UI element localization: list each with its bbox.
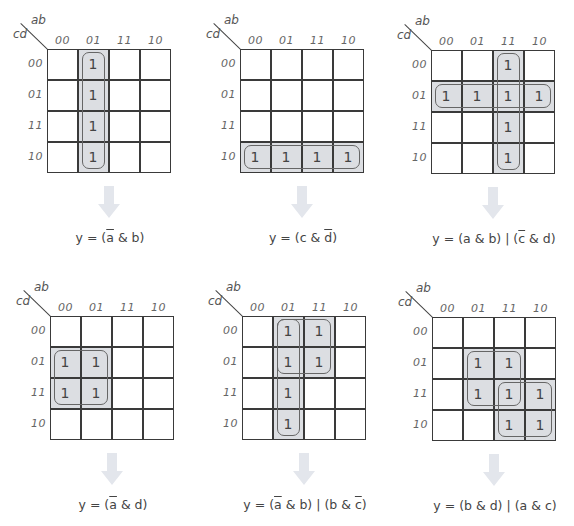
- boolean-formula: y = (a & d): [3, 497, 223, 512]
- column-variable-label: ab: [415, 14, 430, 28]
- kmap-cell: [525, 348, 556, 379]
- kmap-cell: [112, 378, 143, 409]
- row-code-label: 00: [399, 325, 428, 338]
- down-arrow-icon: [483, 454, 505, 486]
- group-loop: [54, 350, 108, 405]
- kmap-cell: [335, 347, 366, 378]
- boolean-formula: y = (c & d): [193, 230, 413, 245]
- formula-text: y = (a & b) | (: [432, 231, 518, 246]
- row-code-label: 11: [398, 120, 427, 133]
- kmap-cell: [140, 80, 171, 111]
- column-code-label: 10: [140, 34, 171, 47]
- column-code-label: 01: [271, 34, 302, 47]
- column-code-label: 10: [525, 302, 556, 315]
- kmap-cell: [143, 378, 174, 409]
- formula-text: y = (: [76, 230, 107, 245]
- formula-text: ): [362, 497, 367, 512]
- kmap-cell: [140, 142, 171, 173]
- kmap-cell: [140, 49, 171, 80]
- column-code-label: 00: [47, 34, 78, 47]
- kmap-cell: [431, 143, 462, 174]
- column-code-label: 11: [302, 34, 333, 47]
- kmap-cell: [271, 49, 302, 80]
- row-code-label: 01: [14, 88, 43, 101]
- kmap-cell: [240, 49, 271, 80]
- column-code-label: 11: [494, 302, 525, 315]
- row-code-label: 10: [207, 150, 236, 163]
- kmap-cell: [140, 111, 171, 142]
- row-code-label: 11: [17, 386, 46, 399]
- column-variable-label: ab: [226, 280, 241, 294]
- row-variable-label: cd: [398, 295, 412, 309]
- kmap-cell: [242, 378, 273, 409]
- kmap-grid: 1111111: [432, 317, 556, 441]
- kmap-cell: [47, 111, 78, 142]
- group-loop: [497, 53, 520, 170]
- kmap-cell: [432, 379, 463, 410]
- kmap-cell: [112, 316, 143, 347]
- kmap-cell: [112, 409, 143, 440]
- column-code-label: 01: [462, 35, 493, 48]
- row-code-label: 11: [207, 119, 236, 132]
- kmap-grid: 1111: [240, 49, 364, 173]
- negated-variable: c: [355, 497, 362, 512]
- kmap-cell: [524, 50, 555, 81]
- group-loop: [498, 382, 552, 437]
- kmap-cell: [81, 316, 112, 347]
- kmap-cell: [302, 80, 333, 111]
- kmap-cell: [463, 317, 494, 348]
- kmap-cell: [242, 409, 273, 440]
- column-code-label: 10: [335, 301, 366, 314]
- row-code-label: 00: [398, 58, 427, 71]
- down-arrow-icon: [482, 187, 504, 219]
- row-code-label: 11: [209, 386, 238, 399]
- kmap-cell: [302, 111, 333, 142]
- formula-text: y = (b & d) | (a & c): [433, 498, 556, 513]
- formula-text: & d): [117, 497, 148, 512]
- kmap-cell: [333, 49, 364, 80]
- formula-text: ): [332, 230, 337, 245]
- kmap-cell: [333, 111, 364, 142]
- column-code-label: 11: [304, 301, 335, 314]
- column-code-label: 11: [112, 301, 143, 314]
- kmap-cell: [432, 410, 463, 441]
- kmap-cell: [335, 378, 366, 409]
- column-code-label: 00: [50, 301, 81, 314]
- row-code-label: 10: [398, 151, 427, 164]
- negated-variable: a: [106, 230, 114, 245]
- row-variable-label: cd: [397, 28, 411, 42]
- column-variable-label: ab: [31, 13, 46, 27]
- kmap-cell: [242, 347, 273, 378]
- kmap-cell: [143, 409, 174, 440]
- row-variable-label: cd: [206, 27, 220, 41]
- column-code-label: 00: [432, 302, 463, 315]
- formula-text: y = (: [243, 497, 274, 512]
- kmap-5: abcd0001111000011110111111y = (a & b) | …: [195, 267, 385, 526]
- kmap-grid: 1111: [47, 49, 171, 173]
- kmap-cell: [240, 111, 271, 142]
- kmap-cell: [462, 112, 493, 143]
- group-loop: [277, 319, 331, 374]
- boolean-formula: y = (a & b) | (b & c): [195, 497, 415, 512]
- column-variable-label: ab: [224, 13, 239, 27]
- kmap-1: abcd00011110000111101111y = (a & b): [0, 0, 190, 260]
- kmap-cell: [109, 111, 140, 142]
- row-code-label: 01: [17, 355, 46, 368]
- down-arrow-icon: [293, 453, 315, 485]
- kmap-cell: [304, 409, 335, 440]
- kmap-cell: [525, 317, 556, 348]
- kmap-grid: 1111111: [431, 50, 555, 174]
- column-code-label: 10: [333, 34, 364, 47]
- kmap-cell: [302, 49, 333, 80]
- column-code-label: 00: [242, 301, 273, 314]
- kmap-4: abcd00011110000111101111y = (a & d): [3, 267, 193, 526]
- column-code-label: 00: [431, 35, 462, 48]
- down-arrow-icon: [291, 186, 313, 218]
- row-variable-label: cd: [16, 294, 30, 308]
- column-code-label: 11: [109, 34, 140, 47]
- kmap-cell: [50, 316, 81, 347]
- row-code-label: 11: [399, 387, 428, 400]
- formula-text: y = (c &: [269, 230, 324, 245]
- group-loop: [244, 145, 360, 169]
- kmap-cell: [50, 409, 81, 440]
